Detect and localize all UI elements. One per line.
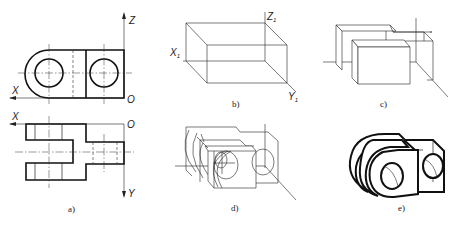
panel-e-finished-isometric xyxy=(350,134,444,197)
axis-label-o-top: O xyxy=(127,119,135,130)
axis-label-z: Z xyxy=(128,15,136,26)
caption-c: c) xyxy=(380,99,387,109)
y-arrow-icon xyxy=(122,191,126,198)
axis-label-z1: Z1 xyxy=(266,11,276,23)
panel-b-bounding-box xyxy=(183,12,296,92)
panel-c-block-out xyxy=(323,18,448,97)
axis-label-x-front: X xyxy=(11,85,19,96)
caption-a: a) xyxy=(68,204,75,214)
caption-d: d) xyxy=(231,203,239,213)
axis-label-y: Y xyxy=(128,188,136,199)
top-view xyxy=(9,116,134,198)
axis-label-y1: Y1 xyxy=(288,91,298,103)
x-arrow-icon xyxy=(9,96,16,100)
axis-label-x-top: X xyxy=(11,111,19,122)
technical-figure: Z X O X O Y a) xyxy=(0,0,456,227)
panel-d-ellipse-construction xyxy=(175,124,296,200)
caption-b: b) xyxy=(232,99,240,109)
axis-label-x1: X1 xyxy=(169,47,180,59)
x-arrow-icon xyxy=(9,122,16,126)
axis-label-o-front: O xyxy=(127,94,135,105)
panel-a-orthographic: Z X O X O Y a) xyxy=(9,12,136,214)
caption-e: e) xyxy=(398,203,405,213)
z-arrow-icon xyxy=(122,12,126,19)
front-view xyxy=(9,12,132,104)
